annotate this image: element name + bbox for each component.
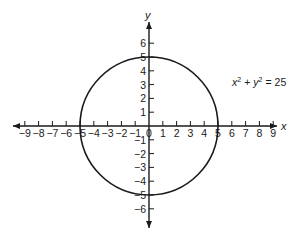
circle-diagram: −9−8−7−6−5−4−3−2−10123456789−6−5−4−3−2−1… [0,0,295,241]
equation-equals: = [265,76,271,88]
x-tick-label: −5 [74,127,86,139]
x-tick-label: 2 [174,127,180,139]
equation-rhs: 25 [275,76,287,88]
x-tick-label: −3 [102,127,114,139]
y-tick-label: −1 [134,134,146,146]
x-tick-label: −4 [88,127,100,139]
x-tick-label: 1 [160,127,166,139]
x-tick-label: −9 [19,127,31,139]
x-tick-label: 0 [146,127,152,139]
y-axis-label: y [144,9,152,21]
x-tick-label: −6 [60,127,72,139]
x-tick-label: −7 [46,127,58,139]
y-tick-label: 1 [140,106,146,118]
x-tick-label: −2 [115,127,127,139]
equation-exp-1: 2 [237,76,241,83]
y-axis-arrow-down-icon [146,221,152,228]
equation-label: x2+y2=25 [231,76,286,88]
y-tick-label: 6 [140,37,146,49]
coordinate-plane: −9−8−7−6−5−4−3−2−10123456789−6−5−4−3−2−1… [0,0,295,241]
x-tick-label: 8 [256,127,262,139]
equation-exp-2: 2 [259,76,263,83]
y-axis-arrow-up-icon [146,22,152,29]
y-tick-label: −2 [134,148,146,160]
x-tick-label: 4 [201,127,207,139]
y-tick-label: −4 [134,175,146,187]
x-tick-label: 7 [243,127,249,139]
y-tick-label: 5 [140,51,146,63]
x-tick-label: 3 [187,127,193,139]
y-tick-label: 2 [140,92,146,104]
x-tick-label: 6 [229,127,235,139]
y-tick-label: −3 [134,161,146,173]
x-tick-label: 9 [270,127,276,139]
y-tick-label: −6 [134,203,146,215]
y-tick-label: −5 [134,189,146,201]
x-axis-label: x [280,120,287,132]
y-tick-label: 3 [140,79,146,91]
x-tick-label: −8 [33,127,45,139]
equation-plus: + [244,76,250,88]
y-tick-label: 4 [140,65,146,77]
x-tick-label: 5 [215,127,221,139]
